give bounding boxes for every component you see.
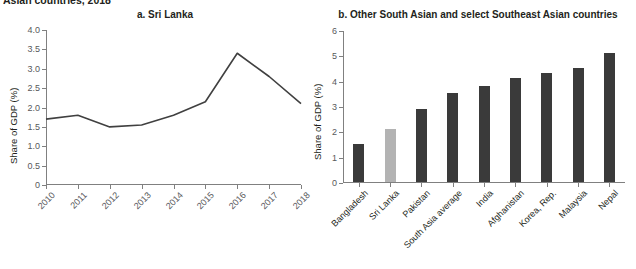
panel-b-y-tick-label: 5 — [327, 51, 337, 61]
panel-b-y-tick — [339, 158, 343, 159]
panel-b-y-tick-label: 3 — [327, 102, 337, 112]
panel-b-y-tick-label: 2 — [327, 127, 337, 137]
panel-b-x-tick — [421, 183, 422, 187]
panel-b-y-tick-label: 0 — [327, 178, 337, 188]
panel-b-y-tick — [339, 107, 343, 108]
panel-b-title: b. Other South Asian and select Southeas… — [320, 9, 636, 20]
panel-b-y-tick-label: 4 — [327, 77, 337, 87]
panel-b-x-tick — [390, 183, 391, 187]
panel-a-x-tick — [301, 185, 302, 189]
panel-b-x-tick — [547, 183, 548, 187]
panel-a-y-tick — [42, 127, 46, 128]
panel-a-y-tick-label: 2.5 — [16, 83, 40, 93]
panel-a-y-tick-label: 3.0 — [16, 64, 40, 74]
panel-a-y-tick-label: 2.0 — [16, 103, 40, 113]
panel-a-y-tick-label: 1.0 — [16, 141, 40, 151]
panel-b-y-tick — [339, 31, 343, 32]
panel-b-x-tick — [359, 183, 360, 187]
panel-b-bar — [573, 68, 584, 182]
panel-a-x-tick-label: 2017 — [249, 190, 280, 221]
panel-a-x-tick-label: 2012 — [90, 190, 121, 221]
panel-a-y-tick — [42, 88, 46, 89]
panel-a-y-tick — [42, 146, 46, 147]
panel-a-x-tick — [205, 185, 206, 189]
panel-a-x-tick — [110, 185, 111, 189]
panel-b-y-tick — [339, 56, 343, 57]
panel-a-x-tick — [269, 185, 270, 189]
panel-b-bar — [353, 144, 364, 182]
panel-b-y-tick-label: 6 — [327, 26, 337, 36]
panel-b-y-axis — [343, 31, 344, 183]
panel-a-y-tick — [42, 49, 46, 50]
panel-b-bar — [510, 78, 521, 182]
panel-a-x-tick — [142, 185, 143, 189]
panel-a-y-tick — [42, 108, 46, 109]
panel-a-x-tick-label: 2018 — [281, 190, 312, 221]
panel-a-plot-area: 00.51.01.52.02.53.03.54.0201020112012201… — [46, 30, 301, 185]
panel-b-x-tick — [515, 183, 516, 187]
panel-a-x-tick — [237, 185, 238, 189]
panel-b-y-tick — [339, 132, 343, 133]
panel-b-bar — [479, 86, 490, 182]
panel-b-y-tick — [339, 82, 343, 83]
panel-a-y-tick — [42, 69, 46, 70]
panel-a-y-tick-label: 3.5 — [16, 44, 40, 54]
panel-a-line-path — [46, 53, 301, 127]
panel-b-bar — [541, 73, 552, 182]
panel-a-y-tick — [42, 166, 46, 167]
panel-b-bar — [385, 129, 396, 182]
panel-a-title: a. Sri Lanka — [0, 9, 330, 20]
panel-a-y-tick-label: 1.5 — [16, 122, 40, 132]
panel-b-x-tick — [578, 183, 579, 187]
panel-b-plot-area: 0123456BangladeshSri LankaPakistanSouth … — [343, 31, 625, 183]
panel-a-sri-lanka: a. Sri Lanka Share of GDP (%) 00.51.01.5… — [0, 0, 330, 269]
panel-a-x-tick-label: 2016 — [217, 190, 248, 221]
panel-a-x-tick-label: 2010 — [26, 190, 57, 221]
panel-b-x-tick — [609, 183, 610, 187]
panel-a-x-tick-label: 2011 — [58, 190, 89, 221]
panel-a-x-tick-label: 2013 — [122, 190, 153, 221]
panel-b-bar — [447, 93, 458, 182]
panel-b-x-tick — [484, 183, 485, 187]
panel-b-y-tick — [339, 183, 343, 184]
panel-b-bar — [416, 109, 427, 182]
figure-container: Asian countries, 2018 a. Sri Lanka Share… — [0, 0, 636, 269]
panel-a-x-tick-label: 2014 — [153, 190, 184, 221]
panel-a-y-tick-label: 0 — [16, 180, 40, 190]
panel-b-bar — [604, 53, 615, 182]
panel-a-x-tick-label: 2015 — [185, 190, 216, 221]
panel-b-x-tick — [453, 183, 454, 187]
panel-a-x-tick — [78, 185, 79, 189]
panel-b-y-tick-label: 1 — [327, 153, 337, 163]
panel-a-x-tick — [46, 185, 47, 189]
panel-b-y-axis-title: Share of GDP (%) — [312, 84, 323, 160]
panel-a-x-tick — [174, 185, 175, 189]
panel-a-line-series — [46, 30, 301, 185]
panel-a-y-tick-label: 4.0 — [16, 25, 40, 35]
panel-a-y-tick-label: 0.5 — [16, 161, 40, 171]
panel-a-y-tick — [42, 30, 46, 31]
